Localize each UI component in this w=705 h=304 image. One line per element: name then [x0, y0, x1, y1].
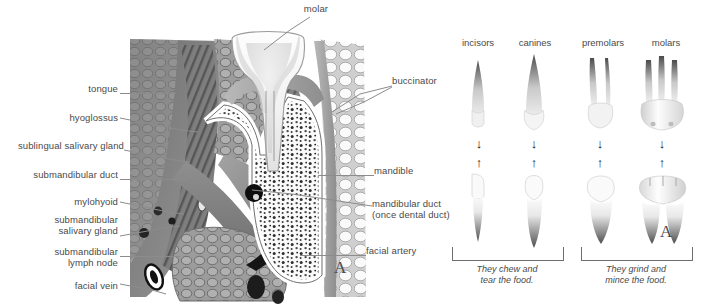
leader-facial-artery [300, 255, 366, 256]
label-mylohyoid: mylohyoid [8, 196, 118, 207]
label-submandibular-duct: submandibular duct [8, 169, 118, 180]
leader-mandible [318, 175, 374, 176]
label-tongue: tongue [8, 83, 118, 94]
arrow-down-icon-incisors: ↓ [470, 137, 488, 150]
leader-submandibular-lymph-node [120, 256, 180, 257]
arrow-pair-molars: ↓ ↑ [653, 137, 671, 169]
arrow-pair-premolars: ↓ ↑ [591, 137, 609, 169]
upper-teeth-row [436, 52, 705, 137]
arrow-down-icon-canines: ↓ [525, 137, 543, 150]
caption-grind-mince: They grind and mince the food. [581, 264, 691, 286]
lymph-node-small [272, 290, 284, 304]
caption-chew-tear: They chew and tear the food. [452, 264, 562, 286]
bracket-chew-tear [452, 247, 564, 261]
label-submandibular-lymph-node: submandibular lymph node [8, 246, 118, 268]
leader-hyoglossus [120, 112, 200, 138]
section-artwork [128, 35, 368, 301]
arrow-pair-incisors: ↓ ↑ [470, 137, 488, 169]
arrow-up-icon-molars: ↑ [653, 156, 671, 169]
leader-sublingual-salivary-gland [124, 146, 192, 168]
tooth-types-panel: incisors canines premolars molars [436, 0, 705, 304]
panel-a-marker-teeth: A [660, 222, 672, 242]
label-submandibular-salivary-gland: submandibular salivary gland [8, 214, 118, 236]
column-heading-molars: molars [631, 37, 701, 48]
leader-molar [260, 12, 370, 54]
tooth-premolar-upper [588, 58, 612, 128]
tooth-incisor-lower [472, 174, 484, 242]
label-sublingual-salivary-gland: sublingual salivary gland [0, 140, 124, 151]
arrow-up-icon-incisors: ↑ [470, 156, 488, 169]
submandibular-lymph-node [247, 275, 265, 299]
sagittal-section-illustration [128, 35, 368, 301]
label-hyoglossus: hyoglossus [8, 112, 118, 123]
bracket-grind-mince [581, 247, 693, 261]
panel-a-marker-section: A [334, 258, 346, 278]
leader-tongue [120, 93, 176, 94]
arrow-down-icon-molars: ↓ [653, 137, 671, 150]
leader-submandibular-salivary-gland [120, 222, 182, 244]
column-heading-premolars: premolars [568, 37, 638, 48]
arrow-down-icon-premolars: ↓ [591, 137, 609, 150]
leader-buccinator [330, 82, 392, 116]
anatomy-figure: A molar tongue hyoglossus sublingual sal… [0, 0, 705, 304]
leader-facial-vein [120, 276, 168, 296]
tooth-incisor-upper [472, 60, 484, 127]
tooth-molar-upper [641, 56, 683, 130]
leader-mandibular-duct [252, 188, 372, 212]
arrow-up-icon-canines: ↑ [525, 156, 543, 169]
column-heading-canines: canines [500, 37, 570, 48]
tooth-canine-lower [525, 176, 543, 249]
sagittal-section-panel: A molar tongue hyoglossus sublingual sal… [0, 0, 430, 304]
leader-mylohyoid [120, 196, 186, 218]
tooth-premolar-lower [587, 176, 614, 244]
arrow-up-icon-premolars: ↑ [591, 156, 609, 169]
arrow-pair-canines: ↓ ↑ [525, 137, 543, 169]
leader-submandibular-duct [120, 179, 188, 180]
tooth-canine-upper [524, 54, 544, 130]
label-facial-vein: facial vein [8, 280, 118, 291]
